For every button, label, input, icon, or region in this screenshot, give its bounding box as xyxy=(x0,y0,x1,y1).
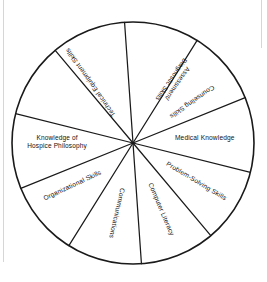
wheel-diagram: Assessment/Diagnostic SkillsCounseling S… xyxy=(0,0,267,282)
segment-label-line: Hospice Philosophy xyxy=(27,141,87,149)
skills-wheel-figure: Assessment/Diagnostic SkillsCounseling S… xyxy=(0,0,267,282)
segment-label-line: Medical Knowledge xyxy=(175,134,235,142)
segment-label-medical-knowledge: Medical Knowledge xyxy=(175,134,235,142)
